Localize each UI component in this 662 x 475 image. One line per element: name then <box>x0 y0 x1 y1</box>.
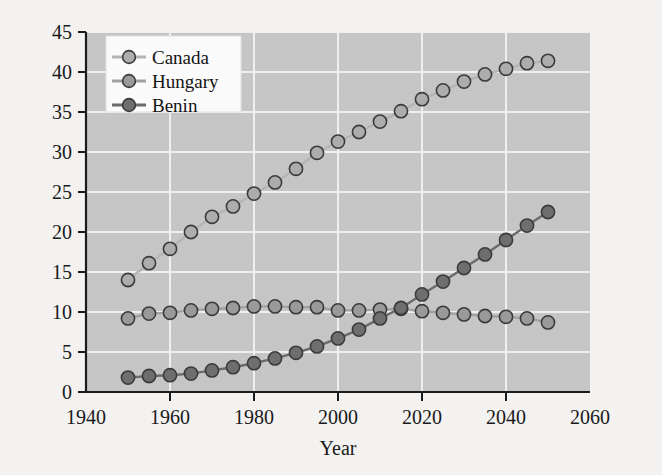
y-tick-label: 35 <box>52 101 72 123</box>
y-tick-label: 45 <box>52 21 72 43</box>
data-point-marker <box>184 225 197 238</box>
data-point-marker <box>499 233 512 246</box>
data-point-marker <box>310 146 323 159</box>
data-point-marker <box>310 301 323 314</box>
data-point-marker <box>268 352 281 365</box>
data-point-marker <box>184 304 197 317</box>
legend-marker-icon <box>123 99 136 112</box>
data-point-marker <box>205 364 218 377</box>
data-point-marker <box>478 248 491 261</box>
data-point-marker <box>499 62 512 75</box>
legend-item-label: Hungary <box>152 71 219 92</box>
y-tick-label: 0 <box>62 381 72 403</box>
data-point-marker <box>457 261 470 274</box>
data-point-marker <box>373 115 386 128</box>
data-point-marker <box>520 219 533 232</box>
data-point-marker <box>436 306 449 319</box>
data-point-marker <box>352 304 365 317</box>
data-point-marker <box>457 308 470 321</box>
data-point-marker <box>415 93 428 106</box>
x-tick-label: 2020 <box>402 406 442 428</box>
legend-item-label: Benin <box>152 95 198 116</box>
data-point-marker <box>289 162 302 175</box>
data-point-marker <box>268 300 281 313</box>
x-tick-label: 2040 <box>486 406 526 428</box>
data-point-marker <box>541 205 554 218</box>
y-tick-label: 5 <box>62 341 72 363</box>
data-point-marker <box>457 75 470 88</box>
data-point-marker <box>226 200 239 213</box>
data-point-marker <box>289 301 302 314</box>
data-point-marker <box>541 316 554 329</box>
chart-figure: 051015202530354045 194019601980200020202… <box>0 0 662 475</box>
data-point-marker <box>415 305 428 318</box>
data-point-marker <box>142 307 155 320</box>
data-point-marker <box>541 54 554 67</box>
data-point-marker <box>520 57 533 70</box>
y-tick-label: 25 <box>52 181 72 203</box>
data-point-marker <box>121 312 134 325</box>
data-point-marker <box>436 84 449 97</box>
legend-marker-icon <box>123 51 136 64</box>
data-point-marker <box>142 257 155 270</box>
data-point-marker <box>226 301 239 314</box>
data-point-marker <box>331 135 344 148</box>
data-point-marker <box>373 312 386 325</box>
x-tick-label: 1960 <box>150 406 190 428</box>
y-tick-label: 20 <box>52 221 72 243</box>
chart-legend: CanadaHungaryBenin <box>106 36 241 116</box>
data-point-marker <box>184 367 197 380</box>
data-point-marker <box>121 371 134 384</box>
legend-marker-icon <box>123 75 136 88</box>
data-point-marker <box>247 357 260 370</box>
y-tick-label: 10 <box>52 301 72 323</box>
data-point-marker <box>289 346 302 359</box>
y-tick-label: 30 <box>52 141 72 163</box>
data-point-marker <box>394 105 407 118</box>
data-point-marker <box>163 369 176 382</box>
data-point-marker <box>142 369 155 382</box>
data-point-marker <box>436 275 449 288</box>
x-tick-label: 2060 <box>570 406 610 428</box>
x-tick-label: 1940 <box>66 406 106 428</box>
data-point-marker <box>499 310 512 323</box>
data-point-marker <box>121 273 134 286</box>
data-point-marker <box>247 300 260 313</box>
data-point-marker <box>415 288 428 301</box>
data-point-marker <box>394 301 407 314</box>
data-point-marker <box>331 332 344 345</box>
data-point-marker <box>205 302 218 315</box>
data-point-marker <box>478 68 491 81</box>
y-tick-label: 15 <box>52 261 72 283</box>
line-chart: 051015202530354045 194019601980200020202… <box>0 0 662 475</box>
data-point-marker <box>352 323 365 336</box>
data-point-marker <box>331 304 344 317</box>
x-tick-label: 1980 <box>234 406 274 428</box>
data-point-marker <box>310 340 323 353</box>
x-tick-label: 2000 <box>318 406 358 428</box>
data-point-marker <box>478 309 491 322</box>
y-tick-label: 40 <box>52 61 72 83</box>
data-point-marker <box>226 361 239 374</box>
data-point-marker <box>247 187 260 200</box>
legend-item-label: Canada <box>152 47 210 68</box>
data-point-marker <box>352 125 365 138</box>
data-point-marker <box>163 242 176 255</box>
data-point-marker <box>205 210 218 223</box>
data-point-marker <box>163 306 176 319</box>
data-point-marker <box>268 176 281 189</box>
x-axis-title: Year <box>320 437 357 459</box>
data-point-marker <box>520 312 533 325</box>
